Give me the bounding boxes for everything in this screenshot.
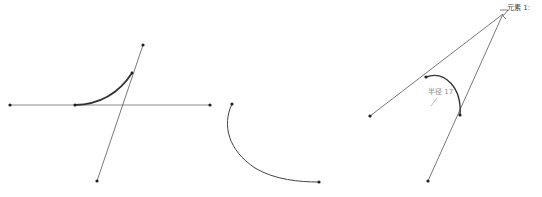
arc-start-point[interactable] [230, 102, 233, 105]
drawing-canvas[interactable] [0, 0, 542, 197]
endpoint[interactable] [368, 114, 371, 117]
endpoint[interactable] [141, 43, 144, 46]
slanted-line[interactable] [97, 45, 143, 181]
element-label: 元素 1: [507, 2, 530, 12]
radius-label: 半径 17 [428, 86, 453, 96]
tangent-point[interactable] [131, 72, 134, 75]
tangent-point[interactable] [424, 75, 427, 78]
right-line[interactable] [428, 14, 503, 181]
tangent-point[interactable] [73, 103, 76, 106]
figure-tangent-arc[interactable] [8, 43, 211, 182]
endpoint[interactable] [95, 179, 98, 182]
arc-end-point[interactable] [317, 180, 320, 183]
radius-leader-line [431, 98, 437, 106]
figure-free-arc[interactable] [227, 102, 320, 183]
fillet-arc[interactable] [75, 73, 132, 105]
endpoint[interactable] [426, 179, 429, 182]
free-arc[interactable] [227, 104, 319, 182]
endpoint[interactable] [208, 103, 211, 106]
tangent-point[interactable] [458, 113, 461, 116]
figure-corner-fillet[interactable] [368, 10, 508, 183]
left-line[interactable] [370, 14, 503, 116]
endpoint[interactable] [8, 103, 11, 106]
